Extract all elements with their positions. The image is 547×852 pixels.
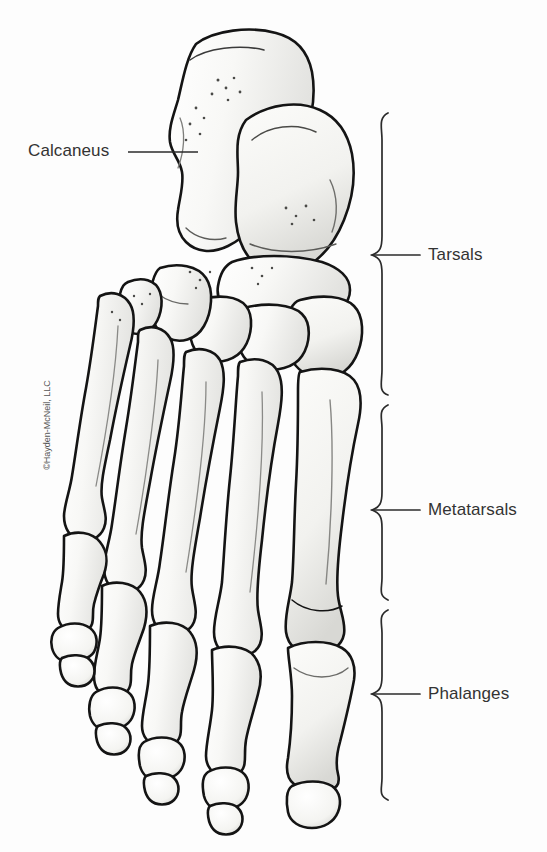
brace-group [372, 113, 420, 800]
metatarsals-brace [372, 405, 388, 600]
foot-skeleton-figure: Calcaneus Tarsals Metatarsals Phalanges … [0, 0, 547, 852]
distal-phalanx-4 [96, 723, 131, 754]
foot-bones-illustration [0, 0, 547, 852]
tarsals-brace [372, 113, 388, 395]
distal-phalanx-5 [60, 655, 95, 686]
talus-bone [235, 105, 353, 274]
tarsals-label: Tarsals [428, 245, 483, 265]
copyright-notice: ©Hayden-McNeil, LLC [42, 360, 52, 490]
distal-phalanx-1 [287, 782, 340, 829]
metatarsal-2 [214, 359, 282, 656]
proximal-phalanx-5 [58, 533, 107, 633]
phalanges-brace [372, 610, 388, 800]
metatarsals-label: Metatarsals [428, 500, 517, 520]
calcaneus-label: Calcaneus [28, 141, 109, 161]
distal-phalanx-3 [144, 773, 179, 804]
proximal-phalanx-2 [206, 647, 261, 777]
distal-phalanx-2 [208, 803, 243, 834]
proximal-phalanx-1 [287, 642, 355, 791]
proximal-phalanx-3 [142, 623, 197, 747]
phalanges-label: Phalanges [428, 684, 509, 704]
proximal-phalanx-4 [94, 583, 147, 697]
